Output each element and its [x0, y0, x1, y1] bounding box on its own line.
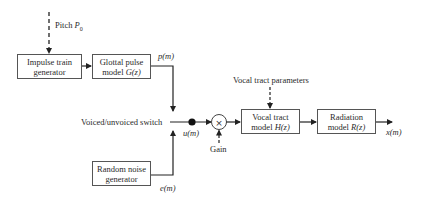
- block-label-line2: generator: [105, 174, 137, 184]
- e-signal-label: e(m): [160, 183, 176, 193]
- radiation-model-block: Radiation model R(z): [317, 109, 376, 134]
- block-label-line1: Impulse train: [27, 57, 72, 67]
- block-label-line1: Random noise: [97, 164, 146, 174]
- impulse-train-generator-block: Impulse train generator: [17, 54, 82, 79]
- svg-text:×: ×: [215, 118, 223, 128]
- pitch-label: Pitch P0: [55, 20, 83, 34]
- p-signal-label: p(m): [158, 51, 174, 61]
- block-label-line1: Glottal pulse: [100, 57, 144, 67]
- vocal-tract-parameters-label: Vocal tract parameters: [233, 75, 309, 85]
- glottal-pulse-model-block: Glottal pulse model G(z): [92, 54, 151, 79]
- p-signal-line: [151, 66, 173, 111]
- e-signal-line: [151, 131, 173, 175]
- switch-node-dot: [188, 118, 195, 125]
- block-label-line2: model R(z): [328, 122, 366, 132]
- block-label-line1: Vocal tract: [252, 112, 288, 122]
- block-label-line2: generator: [33, 67, 65, 77]
- x-output-label: x(m): [386, 127, 402, 137]
- u-signal-label: u(m): [183, 128, 199, 138]
- vocal-tract-model-block: Vocal tract model H(z): [241, 109, 300, 134]
- random-noise-generator-block: Random noise generator: [92, 161, 151, 186]
- gain-label: Gain: [210, 144, 227, 154]
- switch-label: Voiced/unvoiced switch: [81, 117, 162, 127]
- block-label-line2: model G(z): [102, 67, 140, 77]
- block-label-line1: Radiation: [330, 112, 363, 122]
- block-label-line2: model H(z): [251, 122, 289, 132]
